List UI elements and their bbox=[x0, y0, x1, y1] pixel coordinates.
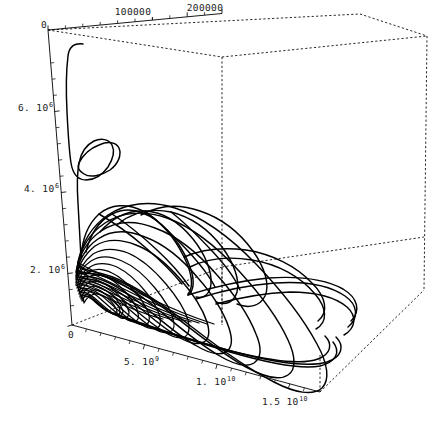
y-tick-label-200000: 200000 bbox=[187, 2, 224, 13]
box-edge-top-back-right bbox=[360, 14, 427, 36]
z-tick-label-4e6: 4. 106 bbox=[24, 182, 59, 194]
x-tick-label-1e10: 1. 1010 bbox=[196, 375, 236, 387]
trajectory-plot-3d: 0 100000 200000 6. 106 4. 106 2. 106 0 5… bbox=[0, 0, 444, 427]
plot-root: 0 100000 200000 6. 106 4. 106 2. 106 0 5… bbox=[0, 0, 444, 427]
box-edge-vertical-right bbox=[424, 36, 427, 290]
axis-labels-z-left: 6. 106 4. 106 2. 106 bbox=[18, 101, 65, 275]
box-edge-top-back-left bbox=[48, 14, 360, 30]
axis-line-z-left bbox=[48, 30, 72, 325]
box-edge-top-front-right bbox=[222, 36, 427, 57]
trajectory-group bbox=[66, 44, 356, 393]
box-edge-bottom-mid-right bbox=[222, 237, 424, 267]
x-tick-label-1-5e10: 1.5 1010 bbox=[262, 395, 308, 407]
trajectory-right-arc-2 bbox=[196, 283, 356, 327]
x-tick-label-5e9: 5. 109 bbox=[124, 355, 159, 367]
bounding-box-wireframe bbox=[48, 14, 427, 392]
y-tick-label-0: 0 bbox=[41, 19, 47, 30]
box-edge-top-front-left bbox=[48, 30, 222, 57]
z-tick-label-6e6: 6. 106 bbox=[18, 101, 53, 113]
tick-marks-x-bottom bbox=[67, 325, 304, 391]
trajectory-right-arc-3 bbox=[216, 292, 354, 335]
z-tick-label-2e6: 2. 106 bbox=[30, 263, 65, 275]
axes-solid bbox=[48, 14, 320, 393]
box-edge-bottom-front-right bbox=[320, 290, 424, 392]
trajectory-outer-lobe-3 bbox=[76, 223, 260, 366]
x-tick-label-0: 0 bbox=[68, 329, 74, 340]
y-tick-label-100000: 100000 bbox=[115, 6, 152, 17]
